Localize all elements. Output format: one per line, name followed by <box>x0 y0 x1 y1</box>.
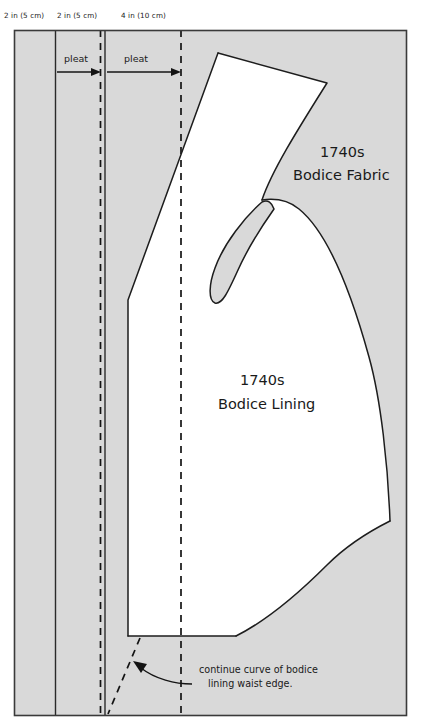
annotation-line2: lining waist edge. <box>208 678 293 689</box>
fabric-label-line1: 1740s <box>320 144 364 160</box>
lining-label-line2: Bodice Lining <box>218 396 315 412</box>
measurement-label-1: 2 in (5 cm) <box>4 11 44 20</box>
pattern-canvas: 2 in (5 cm) 2 in (5 cm) 4 in (10 cm) ple… <box>0 0 423 728</box>
measurement-label-2: 2 in (5 cm) <box>57 11 97 20</box>
pleat-label-1: pleat <box>64 53 88 64</box>
annotation-line1: continue curve of bodice <box>199 664 318 675</box>
measurement-label-3: 4 in (10 cm) <box>121 11 166 20</box>
pleat-label-2: pleat <box>124 53 148 64</box>
fabric-label-line2: Bodice Fabric <box>293 167 390 183</box>
pattern-layout-diagram: 2 in (5 cm) 2 in (5 cm) 4 in (10 cm) ple… <box>0 0 423 728</box>
lining-label-line1: 1740s <box>240 372 284 388</box>
